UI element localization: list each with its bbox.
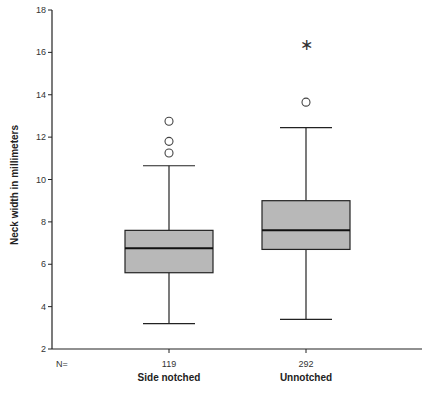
y-tick-label: 10 bbox=[36, 175, 46, 185]
n-label: N= bbox=[56, 359, 68, 369]
iqr-box bbox=[125, 230, 213, 272]
extreme-star: ∗ bbox=[300, 36, 313, 53]
y-tick-label: 4 bbox=[41, 302, 46, 312]
outlier-circle bbox=[165, 117, 173, 125]
y-tick-label: 18 bbox=[36, 5, 46, 15]
boxes: ∗ bbox=[125, 36, 350, 324]
y-tick-label: 2 bbox=[41, 344, 46, 354]
y-tick-label: 12 bbox=[36, 132, 46, 142]
y-tick-label: 6 bbox=[41, 259, 46, 269]
y-tick-label: 16 bbox=[36, 47, 46, 57]
box-unnotched: ∗ bbox=[262, 36, 350, 319]
y-tick-label: 8 bbox=[41, 217, 46, 227]
n-value: 292 bbox=[298, 359, 313, 369]
box-side-notched bbox=[125, 117, 213, 323]
y-tick-label: 14 bbox=[36, 90, 46, 100]
boxplot-chart: 24681012141618 119Side notched292Unnotch… bbox=[0, 0, 437, 395]
category-label: Unnotched bbox=[280, 372, 332, 383]
outlier-circle bbox=[165, 137, 173, 145]
y-axis-label: Neck width in millimeters bbox=[9, 125, 20, 245]
category-label: Side notched bbox=[138, 372, 201, 383]
iqr-box bbox=[262, 201, 350, 250]
x-axis: 119Side notched292Unnotched bbox=[52, 349, 422, 383]
n-value: 119 bbox=[162, 359, 176, 369]
y-axis: 24681012141618 bbox=[36, 5, 52, 354]
outlier-circle bbox=[165, 149, 173, 157]
outlier-circle bbox=[302, 98, 310, 106]
